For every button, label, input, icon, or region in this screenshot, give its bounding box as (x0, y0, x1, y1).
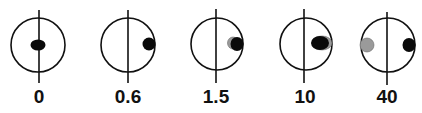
panel-40 (360, 12, 416, 85)
panel-0 (11, 10, 65, 83)
panel-label-40: 40 (357, 86, 417, 108)
panel-0.6 (101, 10, 156, 83)
eye-position-diagram: 0 0.6 1.5 10 40 (0, 0, 422, 113)
panel-label-0.6: 0.6 (98, 86, 158, 108)
black-dot (231, 37, 244, 51)
black-dot (31, 40, 46, 51)
black-dot (143, 38, 156, 51)
panel-label-0: 0 (9, 86, 69, 108)
panel-1.5 (191, 9, 244, 83)
panel-label-1.5: 1.5 (186, 86, 246, 108)
black-dot (311, 36, 329, 50)
gray-dot (360, 38, 374, 52)
black-dot (403, 38, 416, 52)
panel-10 (280, 9, 332, 83)
panel-label-10: 10 (275, 86, 335, 108)
